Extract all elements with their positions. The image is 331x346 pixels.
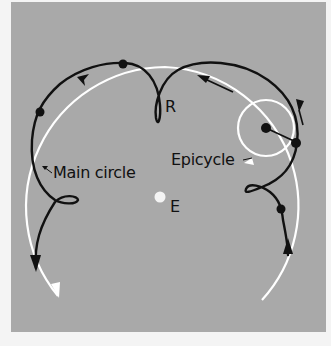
diagram-graphics: [0, 0, 331, 346]
retrograde-label: R: [165, 99, 176, 115]
path-arrow-icon-bottom-left: [30, 255, 41, 272]
earth-dot: [155, 192, 166, 203]
planet-dot: [119, 60, 128, 69]
retrograde-arrow-icon: [197, 75, 210, 83]
path-arrow-icon-top-left: [77, 74, 89, 86]
epicycle-label: Epicycle: [171, 152, 235, 168]
planet-dot: [36, 108, 45, 117]
planet-dot: [277, 205, 286, 214]
earth-label: E: [170, 199, 180, 215]
main-circle-label: Main circle: [53, 165, 136, 181]
path-arrow-icon-epicycle-right: [296, 99, 304, 112]
planet-dot: [291, 138, 301, 148]
epicycle-center-dot: [261, 123, 271, 133]
epicycle-motion-arrow-shaft: [299, 110, 303, 125]
